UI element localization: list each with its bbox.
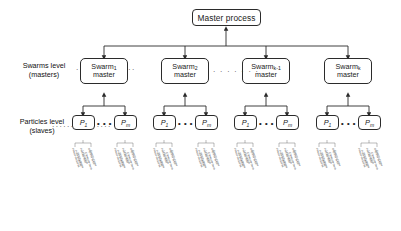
particle-ellipsis-s1: • • • bbox=[97, 119, 112, 128]
node-swarm-1-sub: master bbox=[91, 71, 116, 79]
node-swarm-k-sub: master bbox=[336, 71, 361, 79]
node-particle-sk1-pm-label: Pm bbox=[283, 118, 292, 127]
node-swarm-1[interactable]: Swarm1 master bbox=[80, 58, 128, 84]
node-particle-s1-pm[interactable]: Pm bbox=[114, 115, 137, 130]
node-particle-s2-pm-label: Pm bbox=[202, 118, 211, 127]
node-particle-sk-pm[interactable]: Pm bbox=[358, 115, 381, 130]
diagram-canvas: Master process Swarms level (masters) ··… bbox=[0, 0, 401, 231]
node-master-process[interactable]: Master process bbox=[192, 9, 261, 26]
swarm-ellipsis: · · · · · · · bbox=[213, 68, 259, 75]
node-swarm-2[interactable]: Swarm2 master bbox=[161, 58, 209, 84]
node-particle-s1-p1[interactable]: P1 bbox=[72, 115, 95, 130]
node-particle-sk1-p1-label: P1 bbox=[242, 118, 250, 127]
node-particle-s2-p1[interactable]: P1 bbox=[153, 115, 176, 130]
level-label-swarms: Swarms level (masters) bbox=[8, 62, 80, 79]
particle-ellipsis-s2: • • • bbox=[178, 119, 193, 128]
node-particle-sk1-p1[interactable]: P1 bbox=[234, 115, 257, 130]
node-swarm-k[interactable]: Swarmk master bbox=[324, 58, 372, 84]
node-particle-sk1-pm[interactable]: Pm bbox=[276, 115, 299, 130]
particle-ellipsis-sk1: • • • bbox=[259, 119, 274, 128]
level-label-particles-line2: (slaves) bbox=[29, 126, 54, 135]
node-particle-s2-pm[interactable]: Pm bbox=[195, 115, 218, 130]
node-particle-s1-p1-label: P1 bbox=[80, 118, 88, 127]
node-particle-s2-p1-label: P1 bbox=[161, 118, 169, 127]
particle-ellipsis-sk: • • • bbox=[341, 119, 356, 128]
level-label-swarms-line2: (masters) bbox=[29, 70, 59, 79]
node-swarm-2-sub: master bbox=[172, 71, 197, 79]
node-particle-sk-p1[interactable]: P1 bbox=[316, 115, 339, 130]
node-particle-sk-p1-label: P1 bbox=[324, 118, 332, 127]
node-particle-sk-pm-label: Pm bbox=[365, 118, 374, 127]
node-master-process-label: Master process bbox=[197, 13, 255, 23]
node-particle-s1-pm-label: Pm bbox=[121, 118, 130, 127]
